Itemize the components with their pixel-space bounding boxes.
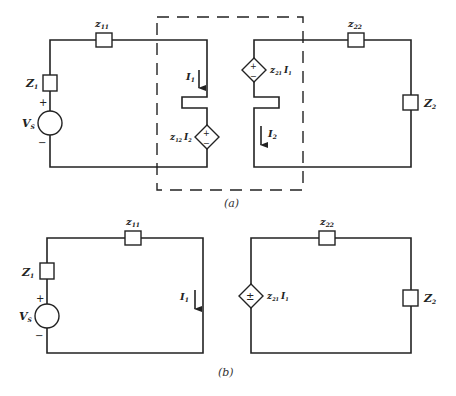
z12i2-label: z12I2 bbox=[169, 132, 192, 143]
two-port-boundary bbox=[157, 17, 303, 190]
z21i1-label: z21I1 bbox=[266, 291, 289, 302]
caption-a: (a) bbox=[224, 197, 239, 210]
voltage-source bbox=[35, 304, 59, 328]
right-loop-b: ± z21I1 z22 Z2 bbox=[239, 216, 436, 353]
vs-plus-sign: + bbox=[36, 293, 44, 304]
z22-label: z22 bbox=[319, 216, 334, 228]
left-loop-b: z11 Z1 + − VS I1 bbox=[19, 216, 203, 353]
z1-impedance bbox=[40, 263, 54, 279]
z11-label: z11 bbox=[94, 18, 109, 30]
dep-minus: − bbox=[203, 139, 210, 148]
left-loop-a: z11 Z1 + − VS I1 + − z12I2 bbox=[22, 18, 219, 167]
z22-label: z22 bbox=[347, 18, 362, 30]
i2-label: I2 bbox=[267, 128, 277, 140]
vs-label: VS bbox=[19, 310, 33, 323]
i1-label: I1 bbox=[179, 291, 189, 303]
figure-b: z11 Z1 + − VS I1 ± z21I1 z22 Z2 bbox=[19, 216, 436, 379]
figure-a: z11 Z1 + − VS I1 + − z12I2 + − z21 bbox=[22, 17, 436, 210]
z21i1-label: z21I1 bbox=[269, 65, 292, 76]
caption-b: (b) bbox=[218, 366, 234, 379]
vs-plus-sign: + bbox=[39, 97, 47, 108]
vs-minus-sign: − bbox=[35, 330, 43, 341]
z1-label: Z1 bbox=[25, 77, 38, 90]
z11-impedance bbox=[96, 33, 112, 47]
vs-label: VS bbox=[22, 117, 36, 130]
circuit-diagram: z11 Z1 + − VS I1 + − z12I2 + − z21 bbox=[0, 0, 456, 396]
dep-plus: + bbox=[250, 62, 257, 71]
vs-minus-sign: − bbox=[38, 137, 46, 148]
z22-impedance bbox=[348, 33, 364, 47]
dep-minus: − bbox=[250, 72, 257, 81]
right-loop-a: + − z21I1 I2 z22 Z2 bbox=[242, 18, 436, 167]
z11-label: z11 bbox=[125, 216, 140, 228]
z11-impedance bbox=[125, 231, 141, 245]
z22-impedance bbox=[319, 231, 335, 245]
voltage-source bbox=[38, 111, 62, 135]
z1-impedance bbox=[43, 75, 57, 91]
z2-label: Z2 bbox=[423, 292, 436, 305]
z1-label: Z1 bbox=[21, 266, 34, 279]
dep-plus-minus: ± bbox=[246, 291, 254, 302]
dep-plus: + bbox=[203, 129, 210, 138]
i1-label: I1 bbox=[185, 71, 195, 83]
z2-impedance bbox=[403, 95, 418, 110]
z2-label: Z2 bbox=[423, 97, 436, 110]
z2-impedance bbox=[403, 290, 418, 306]
